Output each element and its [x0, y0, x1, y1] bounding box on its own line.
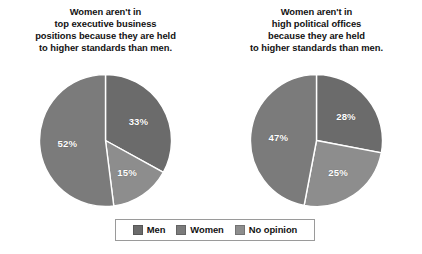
- pie-chart-figure: Women aren't in top executive business p…: [0, 0, 422, 254]
- legend-item-women: Women: [176, 225, 223, 235]
- chart-legend: Men Women No opinion: [115, 219, 315, 241]
- chart-panel-executive-business: Women aren't in top executive business p…: [0, 0, 211, 215]
- legend-label-women: Women: [190, 225, 223, 234]
- legend-swatch-icon-women: [176, 225, 186, 235]
- legend-label-men: Men: [147, 225, 166, 234]
- legend-item-no-opinion: No opinion: [235, 225, 297, 235]
- chart-title-executive-business: Women aren't in top executive business p…: [4, 6, 207, 54]
- chart-panel-political-offices: Women aren't in high political offices b…: [211, 0, 422, 215]
- pie-slice-label-no-opinion: 15%: [117, 167, 137, 178]
- legend-swatch-icon-no-opinion: [235, 225, 245, 235]
- pie-slice-label-women: 47%: [269, 131, 289, 142]
- pie-slice-label-women: 52%: [58, 137, 78, 148]
- chart-title-political-offices: Women aren't in high political offices b…: [215, 6, 418, 54]
- pie-slice-label-no-opinion: 25%: [328, 167, 348, 178]
- pie-slice-label-men: 33%: [129, 116, 149, 127]
- pie-executive-business: 33%15%52%: [39, 74, 172, 207]
- pie-slice-label-men: 28%: [336, 111, 356, 122]
- legend-item-men: Men: [133, 225, 166, 235]
- pie-political-offices: 28%25%47%: [250, 74, 383, 207]
- legend-label-no-opinion: No opinion: [249, 225, 297, 234]
- legend-swatch-icon-men: [133, 225, 143, 235]
